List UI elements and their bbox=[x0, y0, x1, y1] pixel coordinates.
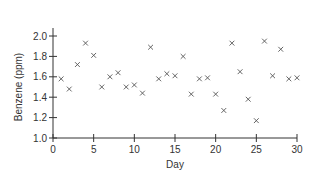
x-marker-icon bbox=[124, 85, 129, 90]
y-tick-label: 1.2 bbox=[33, 112, 47, 123]
scatter-chart: 1.01.21.41.61.82.0 051015202530 Day Benz… bbox=[0, 0, 314, 179]
x-marker-icon bbox=[164, 71, 169, 76]
y-tick-label: 1.0 bbox=[33, 133, 47, 144]
x-marker-icon bbox=[99, 85, 104, 90]
x-marker-icon bbox=[83, 41, 88, 46]
x-marker-icon bbox=[108, 74, 113, 79]
x-marker-icon bbox=[295, 75, 300, 80]
x-tick-label: 15 bbox=[169, 144, 181, 155]
x-tick-label: 5 bbox=[91, 144, 97, 155]
y-tick-label: 1.4 bbox=[33, 92, 47, 103]
y-axis: 1.01.21.41.61.82.0 bbox=[33, 28, 57, 144]
x-marker-icon bbox=[205, 75, 210, 80]
chart-canvas: 1.01.21.41.61.82.0 051015202530 Day Benz… bbox=[0, 0, 314, 179]
x-marker-icon bbox=[189, 92, 194, 97]
x-marker-icon bbox=[213, 92, 218, 97]
x-marker-icon bbox=[286, 76, 291, 81]
x-tick-label: 0 bbox=[50, 144, 56, 155]
x-marker-icon bbox=[148, 45, 153, 50]
x-marker-icon bbox=[67, 87, 72, 92]
x-marker-icon bbox=[91, 53, 96, 58]
x-marker-icon bbox=[238, 69, 243, 74]
data-points bbox=[59, 39, 300, 123]
x-marker-icon bbox=[270, 73, 275, 78]
x-marker-icon bbox=[59, 76, 64, 81]
x-marker-icon bbox=[116, 70, 121, 75]
x-marker-icon bbox=[262, 39, 267, 44]
x-marker-icon bbox=[140, 91, 145, 96]
y-tick-label: 2.0 bbox=[33, 31, 47, 42]
x-marker-icon bbox=[156, 76, 161, 81]
x-axis-title: Day bbox=[166, 159, 184, 170]
x-tick-label: 10 bbox=[129, 144, 141, 155]
y-tick-label: 1.8 bbox=[33, 51, 47, 62]
x-axis: 051015202530 bbox=[50, 134, 303, 155]
x-marker-icon bbox=[221, 108, 226, 113]
x-marker-icon bbox=[181, 54, 186, 59]
y-tick-label: 1.6 bbox=[33, 71, 47, 82]
x-marker-icon bbox=[278, 47, 283, 52]
x-marker-icon bbox=[246, 97, 251, 102]
x-marker-icon bbox=[254, 118, 259, 123]
x-tick-label: 30 bbox=[291, 144, 303, 155]
x-marker-icon bbox=[173, 73, 178, 78]
x-marker-icon bbox=[132, 83, 137, 88]
x-marker-icon bbox=[75, 62, 80, 67]
x-tick-label: 20 bbox=[210, 144, 222, 155]
y-axis-title: Benzene (ppm) bbox=[13, 53, 24, 121]
x-tick-label: 25 bbox=[251, 144, 263, 155]
x-marker-icon bbox=[230, 41, 235, 46]
x-marker-icon bbox=[197, 76, 202, 81]
